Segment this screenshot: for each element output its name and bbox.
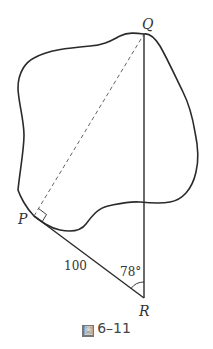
side-length-label: 100 — [64, 259, 87, 273]
segment-PQ — [34, 34, 144, 216]
lake-outline — [18, 33, 198, 231]
lake-diagram: Q P R 100 78° — [0, 0, 213, 349]
point-label-P: P — [17, 211, 28, 227]
figure-prefix: 圖 — [82, 325, 94, 337]
angle-arc-R — [131, 282, 144, 289]
point-label-R: R — [138, 303, 150, 319]
figure-caption: 圖6–11 — [0, 320, 213, 337]
angle-label: 78° — [120, 265, 141, 279]
point-label-Q: Q — [142, 16, 154, 32]
segment-PR — [34, 216, 144, 298]
figure-number: 6–11 — [97, 320, 131, 336]
